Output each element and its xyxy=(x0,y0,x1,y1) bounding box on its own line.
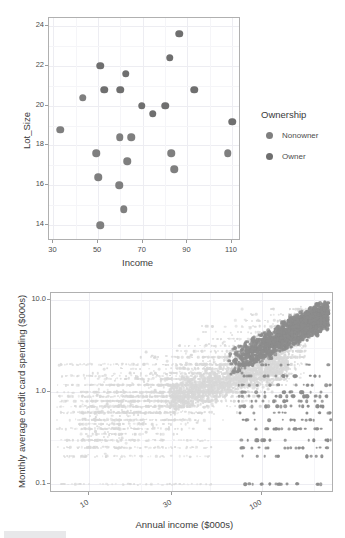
scatter-point xyxy=(56,406,58,408)
y-tick-mark-top xyxy=(45,224,48,225)
scatter-point xyxy=(260,333,263,336)
scatter-point xyxy=(235,354,238,357)
scatter-point xyxy=(229,345,231,347)
scatter-point xyxy=(152,374,154,376)
scatter-point xyxy=(94,427,96,429)
scatter-point xyxy=(290,391,293,394)
scatter-point xyxy=(318,310,321,313)
scatter-point xyxy=(247,331,249,333)
scatter-point xyxy=(74,456,76,458)
scatter-point xyxy=(163,423,165,425)
scatter-point xyxy=(90,447,92,449)
scatter-point xyxy=(312,331,316,335)
scatter-point xyxy=(109,424,111,426)
scatter-point xyxy=(289,405,292,408)
scatter-point xyxy=(199,403,202,406)
scatter-point xyxy=(77,483,79,485)
scatter-point xyxy=(66,455,68,457)
scatter-point xyxy=(319,391,322,394)
scatter-point xyxy=(178,384,180,386)
scatter-point xyxy=(310,384,313,387)
scatter-point xyxy=(277,411,280,414)
scatter-point xyxy=(198,363,200,365)
scatter-point xyxy=(260,483,263,486)
scatter-point xyxy=(248,482,251,485)
scatter-point xyxy=(298,405,301,408)
scatter-point xyxy=(155,423,158,426)
scatter-point xyxy=(285,367,287,369)
scatter-point xyxy=(233,400,236,403)
scatter-point xyxy=(240,386,243,389)
scatter-point xyxy=(175,363,177,365)
scatter-point xyxy=(92,376,94,378)
scatter-point xyxy=(142,433,144,435)
scatter-point xyxy=(272,314,275,317)
scatter-point xyxy=(96,414,98,416)
scatter-point xyxy=(101,86,109,94)
scatter-point xyxy=(185,363,187,365)
scatter-point xyxy=(209,400,211,402)
scatter-point xyxy=(319,482,322,485)
scatter-point xyxy=(96,384,98,386)
scatter-point xyxy=(244,318,247,321)
scatter-point xyxy=(161,102,169,110)
scatter-point xyxy=(61,428,63,430)
scatter-point xyxy=(316,483,319,486)
scatter-point xyxy=(129,384,131,386)
scatter-point xyxy=(132,419,134,421)
scatter-point xyxy=(113,446,115,448)
scatter-point xyxy=(183,400,185,402)
scatter-point xyxy=(147,456,149,458)
scatter-point xyxy=(96,439,99,442)
scatter-point xyxy=(176,30,184,38)
scatter-point xyxy=(148,386,150,388)
credit-card-spending-figure: Monthly average credit card spending ($0… xyxy=(0,270,345,538)
legend-item-owner[interactable]: Owner xyxy=(261,148,318,164)
x-tick-label-top: 90 xyxy=(176,245,196,254)
scatter-point xyxy=(298,343,301,346)
scatter-point xyxy=(252,314,254,316)
scatter-point xyxy=(263,325,266,328)
scatter-point xyxy=(161,484,163,486)
scatter-point xyxy=(140,483,142,485)
scatter-point xyxy=(119,377,122,380)
x-tick-mark-top xyxy=(186,240,187,243)
scatter-point xyxy=(301,356,303,358)
scatter-point xyxy=(125,447,127,449)
legend-item-nonowner[interactable]: Nonowner xyxy=(261,127,318,143)
scatter-point xyxy=(109,400,111,402)
scatter-point xyxy=(183,456,185,458)
scatter-point xyxy=(179,375,181,377)
riding-mowers-scatter-figure: Lot_Size Income Ownership Nonowner Owner… xyxy=(0,0,345,270)
scatter-point xyxy=(194,387,197,390)
scatter-point xyxy=(179,455,181,457)
scatter-point xyxy=(114,428,116,430)
scatter-point xyxy=(163,387,165,389)
scatter-point xyxy=(238,411,241,414)
scatter-point xyxy=(192,412,194,414)
scatter-point xyxy=(103,391,105,393)
scatter-point xyxy=(103,368,106,371)
scatter-point xyxy=(97,391,99,393)
scatter-point xyxy=(273,411,276,414)
scatter-point xyxy=(145,391,148,394)
scatter-point xyxy=(93,150,101,158)
scatter-point xyxy=(77,419,79,421)
scatter-point xyxy=(169,428,171,430)
scatter-point xyxy=(297,363,299,365)
scatter-point xyxy=(301,446,304,449)
scatter-point xyxy=(72,364,74,366)
scatter-point xyxy=(272,384,274,386)
scatter-point xyxy=(214,345,217,348)
scatter-point xyxy=(148,368,150,370)
scatter-point xyxy=(101,442,103,444)
scatter-point xyxy=(80,363,82,365)
scatter-point xyxy=(197,400,199,402)
scatter-point xyxy=(80,392,82,394)
scatter-point xyxy=(259,405,262,408)
x-tick-mark-top xyxy=(231,240,232,243)
gridline-horizontal xyxy=(51,300,332,301)
scatter-point xyxy=(101,439,103,441)
scatter-point xyxy=(234,340,236,342)
scatter-point xyxy=(61,375,63,377)
